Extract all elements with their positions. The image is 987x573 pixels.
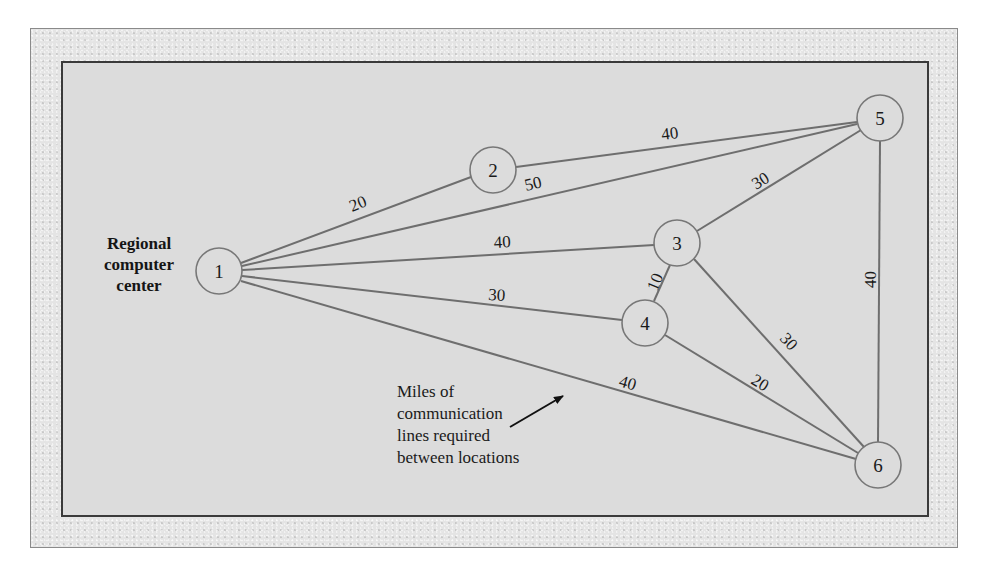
- node-label: 4: [640, 313, 650, 334]
- node-6: 6: [855, 442, 901, 488]
- node-label: 3: [672, 233, 682, 254]
- center-label-line: center: [84, 275, 194, 296]
- node-3: 3: [654, 220, 700, 266]
- edge-2-5: [516, 122, 857, 167]
- miles-annotation-note: Miles of communication lines required be…: [397, 381, 597, 469]
- edge-weight-5-6: 40: [861, 271, 880, 288]
- node-label: 1: [214, 261, 224, 282]
- edge-5-6: [878, 141, 880, 442]
- node-1: 1: [196, 248, 242, 294]
- center-label-line: Regional: [84, 233, 194, 254]
- note-line: Miles of: [397, 381, 597, 403]
- edge-1-5: [242, 124, 857, 266]
- edge-weight-1-3: 40: [493, 232, 511, 252]
- edge-1-3: [242, 245, 654, 270]
- edge-weight-4-6: 20: [748, 370, 772, 395]
- node-2: 2: [470, 147, 516, 193]
- edge-weight-3-6: 30: [776, 329, 801, 354]
- edge-weight-1-2: 20: [346, 192, 369, 216]
- note-line: communication: [397, 403, 597, 425]
- edge-weight-3-4: 10: [643, 271, 667, 294]
- edge-weight-3-5: 30: [748, 168, 772, 193]
- node-label: 5: [875, 108, 885, 129]
- regional-computer-center-label: Regional computer center: [84, 233, 194, 296]
- node-label: 2: [488, 160, 498, 181]
- note-line: lines required: [397, 425, 597, 447]
- node-label: 6: [873, 455, 883, 476]
- node-4: 4: [622, 300, 668, 346]
- center-label-line: computer: [84, 254, 194, 275]
- edge-1-2: [241, 177, 471, 263]
- note-line: between locations: [397, 447, 597, 469]
- edge-3-5: [697, 130, 861, 231]
- edge-weight-1-4: 30: [488, 285, 506, 305]
- edge-weight-2-5: 40: [660, 123, 679, 144]
- edge-weight-1-5: 50: [523, 173, 544, 195]
- node-5: 5: [857, 95, 903, 141]
